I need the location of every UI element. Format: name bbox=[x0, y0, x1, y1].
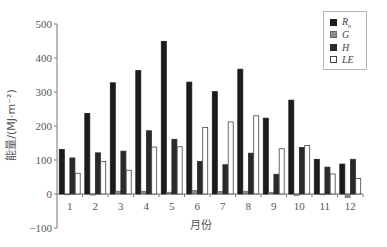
bar-rn-month-6 bbox=[187, 82, 192, 194]
y-tick-label: 300 bbox=[36, 86, 53, 98]
bar-g-month-3 bbox=[116, 191, 121, 194]
bar-rn-month-5 bbox=[161, 41, 166, 194]
y-tick-label: 500 bbox=[36, 18, 53, 30]
bar-g-month-5 bbox=[167, 192, 172, 194]
y-tick-label: 0 bbox=[47, 188, 53, 200]
legend-item-h: H bbox=[330, 41, 349, 53]
legend-label: G bbox=[342, 29, 349, 40]
bar-h-month-1 bbox=[70, 158, 75, 194]
bar-g-month-1 bbox=[65, 194, 70, 195]
bar-h-month-7 bbox=[223, 165, 228, 194]
x-tick-label: 10 bbox=[294, 200, 306, 212]
bar-g-month-7 bbox=[218, 192, 223, 194]
bar-le-month-6 bbox=[203, 127, 208, 194]
legend-item-le: LE bbox=[330, 54, 354, 66]
bar-g-month-9 bbox=[269, 192, 274, 194]
y-axis-label: 能量/(MJ·m⁻²) bbox=[2, 89, 18, 160]
bar-le-month-2 bbox=[101, 161, 106, 194]
legend-item-rn: Rn bbox=[330, 16, 351, 28]
x-tick-label: 4 bbox=[144, 200, 150, 212]
bars bbox=[59, 41, 360, 197]
y-tick-label: 400 bbox=[36, 52, 53, 64]
x-tick-label: 5 bbox=[169, 200, 175, 212]
bar-rn-month-1 bbox=[59, 149, 64, 194]
bar-le-month-1 bbox=[75, 173, 80, 194]
y-axis: −1000100200300400500 bbox=[29, 18, 57, 234]
bar-h-month-3 bbox=[121, 151, 126, 194]
bar-rn-month-8 bbox=[238, 69, 243, 194]
y-tick-label: 100 bbox=[36, 154, 53, 166]
x-tick-label: 2 bbox=[93, 200, 99, 212]
x-tick-label: 12 bbox=[345, 200, 356, 212]
bar-rn-month-7 bbox=[212, 92, 217, 194]
x-tick-label: 6 bbox=[195, 200, 201, 212]
x-tick-label: 7 bbox=[220, 200, 226, 212]
bar-g-month-2 bbox=[90, 194, 95, 195]
bar-le-month-11 bbox=[330, 174, 335, 194]
legend-swatch-g bbox=[330, 31, 337, 38]
x-tick-label: 3 bbox=[118, 200, 124, 212]
bar-g-month-10 bbox=[294, 194, 299, 195]
x-axis-label: 月份 bbox=[190, 216, 212, 232]
bar-le-month-9 bbox=[279, 149, 284, 194]
legend: RnGHLE bbox=[323, 11, 367, 70]
x-tick-label: 9 bbox=[271, 200, 277, 212]
bar-g-month-8 bbox=[243, 191, 248, 194]
bar-h-month-2 bbox=[95, 153, 100, 194]
bar-le-month-3 bbox=[126, 170, 131, 194]
bar-le-month-4 bbox=[152, 147, 157, 194]
bar-h-month-6 bbox=[197, 161, 202, 194]
bar-h-month-8 bbox=[248, 153, 253, 194]
legend-swatch-rn bbox=[330, 19, 337, 26]
x-axis: 123456789101112 bbox=[57, 194, 363, 212]
bar-g-month-11 bbox=[320, 194, 325, 195]
bar-h-month-9 bbox=[274, 174, 279, 194]
legend-label: H bbox=[342, 42, 349, 53]
bar-rn-month-4 bbox=[136, 71, 141, 194]
bar-g-month-4 bbox=[141, 191, 146, 194]
bar-le-month-7 bbox=[228, 122, 233, 194]
bar-g-month-6 bbox=[192, 191, 197, 194]
x-tick-label: 8 bbox=[246, 200, 252, 212]
bar-le-month-12 bbox=[356, 178, 361, 194]
y-tick-label: −100 bbox=[29, 222, 52, 234]
bar-rn-month-11 bbox=[314, 159, 319, 194]
legend-label: Rn bbox=[342, 16, 351, 29]
bar-h-month-5 bbox=[172, 139, 177, 194]
bar-rn-month-10 bbox=[289, 100, 294, 194]
bar-le-month-5 bbox=[177, 147, 182, 194]
bar-g-month-12 bbox=[345, 194, 350, 197]
x-tick-label: 1 bbox=[67, 200, 73, 212]
legend-swatch-h bbox=[330, 44, 337, 51]
bar-h-month-10 bbox=[299, 147, 304, 194]
bar-rn-month-12 bbox=[340, 164, 345, 194]
bar-le-month-8 bbox=[254, 116, 259, 194]
bar-rn-month-9 bbox=[263, 118, 268, 194]
x-tick-label: 11 bbox=[319, 200, 330, 212]
legend-label: LE bbox=[342, 54, 354, 65]
bar-rn-month-3 bbox=[110, 83, 115, 194]
bar-rn-month-2 bbox=[85, 113, 90, 194]
y-tick-label: 200 bbox=[36, 120, 53, 132]
legend-item-g: G bbox=[330, 29, 349, 41]
bar-h-month-11 bbox=[325, 167, 330, 194]
bar-h-month-12 bbox=[350, 159, 355, 194]
bar-le-month-10 bbox=[305, 145, 310, 194]
legend-swatch-le bbox=[330, 56, 337, 63]
bar-h-month-4 bbox=[146, 131, 151, 194]
